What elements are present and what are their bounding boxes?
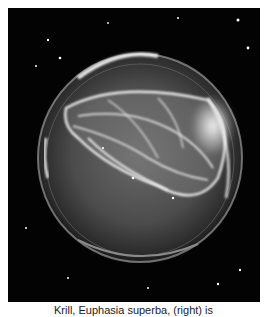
specimen-photo <box>8 8 260 302</box>
ctenophore-illustration <box>8 8 260 302</box>
photo-caption: Krill, Euphasia superba, (right) is <box>0 303 267 317</box>
